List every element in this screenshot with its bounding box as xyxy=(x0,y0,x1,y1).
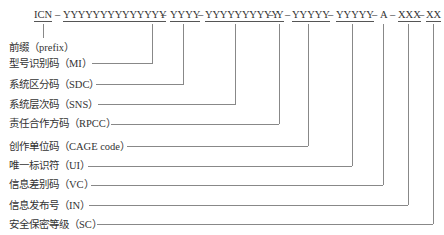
connector-in-vertical xyxy=(408,24,409,205)
connector-prefix xyxy=(43,24,44,38)
connector-cage-vertical xyxy=(308,24,309,146)
label-sns: 系统层次码（SNS） xyxy=(9,98,98,111)
label-en: （CAGE code） xyxy=(59,141,130,152)
connector-rpcc-vertical xyxy=(279,24,280,124)
label-ui: 唯一标识符（UI） xyxy=(9,159,90,172)
connector-rpcc-horizontal xyxy=(111,124,279,125)
code-separator: – xyxy=(55,9,60,21)
connector-mi-horizontal xyxy=(92,63,152,64)
code-separator: – xyxy=(419,9,424,21)
code-segment-icn: ICN xyxy=(34,9,52,22)
code-segment-mi: YYYYYYYYYYYYYY xyxy=(63,9,166,22)
label-zh: 创作单位码 xyxy=(9,140,59,152)
code-segment-sc: XX xyxy=(426,9,441,22)
connector-ui-horizontal xyxy=(88,166,352,167)
label-zh: 信息差别码 xyxy=(9,178,59,190)
connector-sns-horizontal xyxy=(98,104,235,105)
code-separator: – xyxy=(198,9,203,21)
label-en: （MI） xyxy=(59,58,92,69)
label-sdc: 系统区分码（SDC） xyxy=(9,78,99,91)
label-sc: 安全保密等级（SC） xyxy=(9,218,102,231)
label-zh: 系统层次码 xyxy=(9,98,59,110)
label-vc: 信息差别码（VC） xyxy=(9,178,94,191)
connector-sns-vertical xyxy=(235,24,236,105)
label-prefix: 前缀（prefix） xyxy=(9,41,74,54)
label-zh: 责任合作方码 xyxy=(9,117,69,129)
connector-sc-horizontal xyxy=(97,224,433,225)
label-en: （VC） xyxy=(59,179,94,190)
code-separator: – xyxy=(285,9,290,21)
code-segment-sdc: YYYY xyxy=(170,9,200,22)
code-segment-cage: YYYYY xyxy=(292,9,330,22)
label-en: （SNS） xyxy=(59,99,98,110)
label-mi: 型号识别码（MI） xyxy=(9,57,92,70)
label-zh: 安全保密等级 xyxy=(9,218,69,230)
connector-ui-vertical xyxy=(352,24,353,166)
connector-vc-vertical xyxy=(383,24,384,185)
label-zh: 系统区分码 xyxy=(9,78,59,90)
label-en: （IN） xyxy=(59,200,90,211)
code-segment-rpcc: Y xyxy=(276,9,284,22)
code-segment-in: XXX xyxy=(398,9,421,22)
label-rpcc: 责任合作方码（RPCC） xyxy=(9,117,116,130)
label-en: （RPCC） xyxy=(69,118,116,129)
label-zh: 信息发布号 xyxy=(9,199,59,211)
code-segment-vc: A xyxy=(380,9,388,21)
label-en: （UI） xyxy=(59,160,90,171)
label-zh: 前缀 xyxy=(9,41,29,53)
label-en: （SDC） xyxy=(59,79,99,90)
connector-cage-horizontal xyxy=(127,146,308,147)
code-separator: – xyxy=(390,9,395,21)
connector-sdc-horizontal xyxy=(96,84,183,85)
label-zh: 型号识别码 xyxy=(9,57,59,69)
code-separator: – xyxy=(372,9,377,21)
connector-mi-vertical xyxy=(152,24,153,64)
connector-in-horizontal xyxy=(89,205,408,206)
label-in: 信息发布号（IN） xyxy=(9,199,90,212)
label-zh: 唯一标识符 xyxy=(9,159,59,171)
code-separator: – xyxy=(328,9,333,21)
connector-sc-vertical xyxy=(433,24,434,224)
label-cage: 创作单位码（CAGE code） xyxy=(9,140,130,153)
code-separator: – xyxy=(161,9,166,21)
label-en: （prefix） xyxy=(29,42,74,53)
connector-sdc-vertical xyxy=(183,24,184,85)
connector-vc-horizontal xyxy=(91,185,383,186)
icn-structure-diagram: ICN – YYYYYYYYYYYYYY – YYYY – YYYYYYYYYY… xyxy=(0,0,444,235)
code-separator: – xyxy=(268,9,273,21)
code-segment-ui: YYYYY xyxy=(336,9,374,22)
